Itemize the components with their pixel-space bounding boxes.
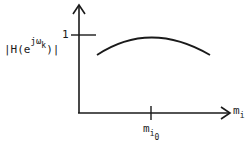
- x-tick-base: m: [143, 122, 150, 135]
- x-label-sub: i: [240, 111, 245, 120]
- response-curve: [97, 38, 210, 56]
- y-label-suffix: )|: [46, 43, 59, 56]
- x-axis-label: mi: [233, 105, 244, 116]
- plot-canvas: [0, 0, 246, 149]
- y-tick-label: 1: [62, 29, 69, 40]
- y-label-exp-text: jω: [31, 36, 42, 46]
- y-label-prefix: |H(e: [4, 43, 31, 56]
- y-axis-label: |H(ejωk)|: [4, 44, 59, 55]
- x-axis: [78, 107, 230, 119]
- x-tick-label: mi0: [143, 123, 159, 134]
- y-label-exponent: jωk: [31, 36, 47, 46]
- y-axis: [73, 5, 85, 113]
- x-label-base: m: [233, 104, 240, 117]
- x-tick-subsub: 0: [154, 133, 159, 142]
- y-label-exp-sub: k: [41, 41, 46, 50]
